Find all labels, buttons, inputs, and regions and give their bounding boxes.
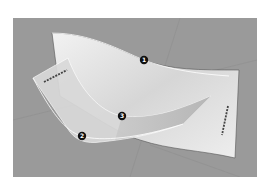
3d-viewport: 1 2 3	[13, 18, 257, 177]
callout-2: 2	[78, 132, 86, 140]
svg-text:3: 3	[120, 112, 124, 119]
callout-1: 1	[140, 56, 148, 64]
surface-scene: 1 2 3	[13, 18, 257, 177]
svg-text:2: 2	[80, 132, 84, 139]
svg-text:1: 1	[142, 56, 146, 63]
callout-3: 3	[118, 112, 126, 120]
